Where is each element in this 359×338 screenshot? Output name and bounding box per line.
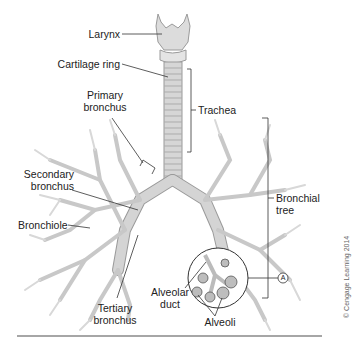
label-trachea: Trachea [198,104,236,116]
label-primary-bronchus-line1: Primary [80,89,130,101]
label-secondary-bronchus-line1: Secondary [10,168,74,180]
label-bronchial-tree-line2: tree [276,204,294,216]
copyright-notice: © Cengage Learning 2014 [343,236,350,318]
label-alveoli: Alveoli [195,316,245,328]
alveoli-inset [188,248,288,308]
label-tertiary-bronchus-line1: Tertiary [90,302,140,314]
larynx-shape [156,14,190,63]
label-primary-bronchus-line2: bronchus [80,101,130,113]
label-larynx: Larynx [60,28,120,40]
trachea-shape [164,62,182,182]
label-cartilage-ring: Cartilage ring [40,58,120,70]
label-secondary-bronchus-line2: bronchus [10,180,74,192]
label-tertiary-bronchus-line2: bronchus [90,314,140,326]
label-bronchiole: Bronchiole [18,219,68,231]
label-bronchial-tree-line1: Bronchial [276,192,320,204]
label-alveolar-duct-line2: duct [145,298,195,310]
label-alveolar-duct-line1: Alveolar [145,286,195,298]
label-inset-marker: A [279,272,287,284]
